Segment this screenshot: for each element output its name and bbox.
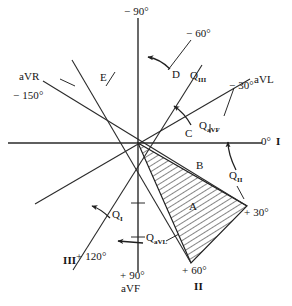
- label-lead-aVL: aVL: [254, 74, 274, 86]
- leader-minus-30: [224, 88, 234, 116]
- label-q-one-sub: I: [120, 215, 123, 223]
- leader-avr: [60, 79, 75, 86]
- label-q-avl: QaVL: [146, 232, 167, 247]
- label-q-avl-base: Q: [146, 231, 154, 243]
- label-q-three-base: Q: [190, 69, 198, 81]
- label-plus-30: + 30°: [244, 207, 269, 219]
- label-q-avf: QaVF: [199, 120, 220, 135]
- label-q-two-sub: II: [237, 176, 242, 184]
- arrow-q-one: [92, 206, 110, 218]
- arrow-q-avl: [118, 241, 143, 243]
- label-minus-90: − 90°: [124, 6, 149, 18]
- label-q-avl-sub: aVL: [154, 238, 167, 246]
- arrow-q-three: [148, 57, 170, 69]
- hexaxial-diagram: − 90° − 60° E D QIII − 30° aVL aVR − 150…: [0, 0, 292, 306]
- label-minus-30: − 30°: [229, 80, 254, 92]
- label-q-three: QIII: [190, 70, 206, 85]
- label-lead-I: I: [276, 136, 280, 148]
- label-region-b: B: [196, 160, 203, 172]
- axis-lead-II: [72, 60, 191, 263]
- label-lead-II: II: [194, 281, 203, 293]
- label-q-two: QII: [229, 170, 243, 185]
- label-lead-aVR: aVR: [19, 71, 39, 83]
- label-zero-deg: 0°: [261, 136, 271, 148]
- label-q-one: QI: [112, 209, 123, 224]
- label-region-c: C: [185, 128, 192, 140]
- label-minus-150: − 150°: [13, 90, 43, 102]
- label-q-avf-sub: aVF: [207, 126, 220, 134]
- label-q-one-base: Q: [112, 208, 120, 220]
- label-plus-90: + 90°: [120, 270, 145, 282]
- label-plus-120: + 120°: [76, 251, 106, 263]
- leader-e: [106, 72, 115, 86]
- label-region-e: E: [100, 72, 107, 84]
- label-region-a: A: [189, 201, 197, 213]
- arrow-q-two: [228, 142, 236, 170]
- label-lead-III: III: [63, 255, 76, 267]
- label-q-two-base: Q: [229, 169, 237, 181]
- diagram-canvas: [0, 0, 292, 306]
- label-q-three-sub: III: [198, 76, 206, 84]
- label-q-avf-base: Q: [199, 119, 207, 131]
- label-minus-60: − 60°: [186, 28, 211, 40]
- leader-minus-60: [168, 40, 191, 70]
- leader-q-two: [237, 186, 244, 199]
- label-plus-60: + 60°: [182, 265, 207, 277]
- label-region-d: D: [172, 69, 180, 81]
- label-lead-aVF: aVF: [121, 283, 140, 295]
